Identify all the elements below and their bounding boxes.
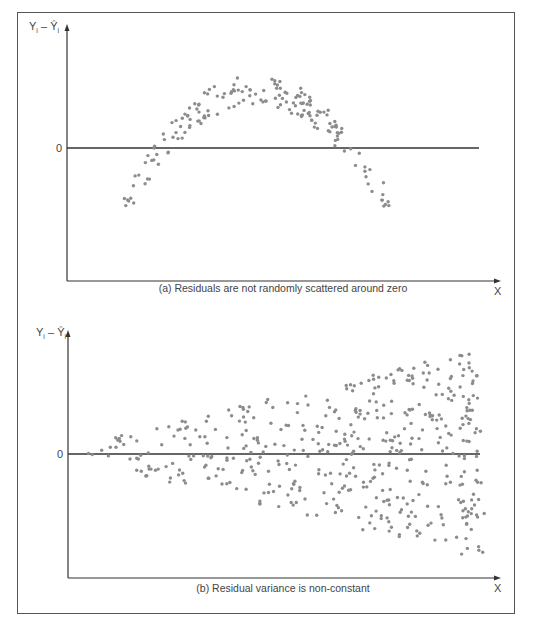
y-axis-label-b: Yi – Ŷi [36, 326, 66, 340]
x-axis-arrow-icon [494, 279, 501, 284]
x-axis-arrow-icon [494, 576, 501, 581]
x-label-a: X [494, 285, 502, 297]
caption-a: (a) Residuals are not randomly scattered… [159, 282, 408, 294]
y-axis-arrow-icon [66, 330, 71, 337]
zero-label-b: 0 [57, 448, 63, 460]
y-axis-arrow-icon [65, 24, 70, 31]
residual-plots: Yi – Ŷi 0 X (a) Residuals are not random… [0, 0, 533, 627]
scatter-points-a [123, 76, 391, 208]
panel-a: Yi – Ŷi 0 X (a) Residuals are not random… [29, 20, 502, 297]
caption-b: (b) Residual variance is non-constant [196, 582, 369, 594]
x-label-b: X [494, 582, 502, 594]
y-axis-label-a: Yi – Ŷi [29, 20, 59, 34]
zero-label-a: 0 [56, 142, 62, 154]
panel-b: Yi – Ŷi 0 X (b) Residual variance is non… [36, 326, 502, 594]
